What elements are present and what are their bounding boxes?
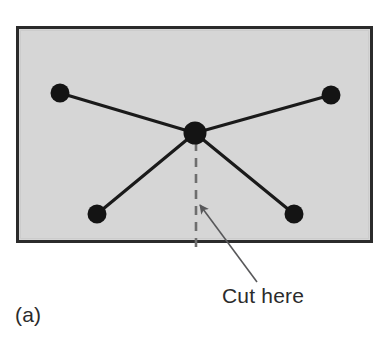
node-top-right	[322, 86, 341, 105]
panel-caption-label: (a)	[15, 303, 41, 326]
node-center-hub	[184, 122, 207, 145]
node-bottom-right	[285, 205, 304, 224]
figure-canvas: Cut here (a)	[0, 0, 387, 340]
cut-here-annotation: Cut here	[222, 284, 304, 307]
figure-container: Cut here (a)	[0, 0, 387, 340]
node-bottom-left	[88, 205, 107, 224]
node-top-left	[51, 84, 70, 103]
